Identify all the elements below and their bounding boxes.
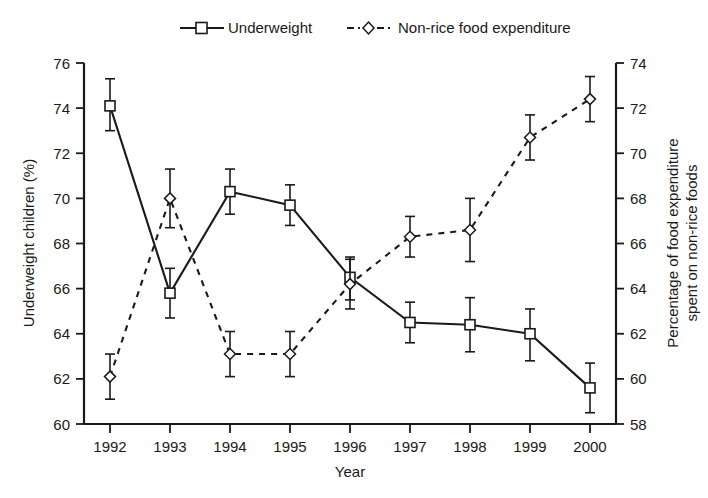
x-axis-tick-label: 2000: [573, 438, 606, 455]
legend-label-underweight: Underweight: [228, 19, 313, 36]
legend-marker-open-square: [196, 23, 207, 34]
data-point-marker-square: [585, 383, 595, 393]
y-axis-left-ticks: 606264666870727476: [53, 55, 84, 433]
data-point-marker-square: [165, 288, 175, 298]
y-axis-right-tick-label: 66: [630, 235, 647, 252]
data-point-marker-square: [465, 320, 475, 330]
data-point-marker-diamond: [525, 132, 536, 143]
legend-entry-underweight: Underweight: [180, 19, 313, 36]
y-axis-left-tick-label: 62: [53, 370, 70, 387]
series-line: [110, 99, 590, 377]
data-point-marker-diamond: [585, 94, 596, 105]
y-axis-left-tick-label: 72: [53, 145, 70, 162]
data-point-marker-square: [225, 187, 235, 197]
y-axis-right-tick-label: 68: [630, 190, 647, 207]
x-axis-ticks: 199219931994199519961997199819992000: [93, 424, 606, 455]
data-point-marker-square: [525, 329, 535, 339]
y-axis-right-tick-label: 70: [630, 145, 647, 162]
legend-label-nonrice: Non-rice food expenditure: [398, 19, 571, 36]
x-axis-tick-label: 1997: [393, 438, 426, 455]
y-axis-left-title: Underweight children (%): [20, 159, 37, 327]
y-axis-left-tick-label: 76: [53, 55, 70, 72]
y-axis-right-tick-label: 62: [630, 325, 647, 342]
legend-entry-nonrice: Non-rice food expenditure: [347, 19, 571, 36]
chart-figure: Underweight Non-rice food expenditure 60…: [0, 0, 708, 498]
y-axis-left-tick-label: 60: [53, 416, 70, 433]
line-chart-svg: Underweight Non-rice food expenditure 60…: [0, 0, 708, 498]
y-axis-right-tick-label: 74: [630, 55, 647, 72]
y-axis-right-tick-label: 72: [630, 100, 647, 117]
y-axis-right-tick-label: 58: [630, 416, 647, 433]
y-axis-right-title-line1: Percentage of food expenditure: [664, 138, 681, 347]
chart-series-layer: [105, 77, 596, 413]
y-axis-left-tick-label: 66: [53, 280, 70, 297]
data-point-marker-diamond: [165, 193, 176, 204]
y-axis-right-tick-label: 64: [630, 280, 647, 297]
y-axis-left-tick-label: 70: [53, 190, 70, 207]
series-underweight: [105, 79, 595, 413]
x-axis-title: Year: [335, 463, 365, 480]
x-axis-tick-label: 1995: [273, 438, 306, 455]
y-axis-left-tick-label: 74: [53, 100, 70, 117]
y-axis-left-tick-label: 68: [53, 235, 70, 252]
x-axis-tick-label: 1999: [513, 438, 546, 455]
x-axis-tick-label: 1992: [93, 438, 126, 455]
data-point-marker-square: [405, 317, 415, 327]
x-axis-tick-label: 1998: [453, 438, 486, 455]
y-axis-right-tick-label: 60: [630, 370, 647, 387]
y-axis-right-title-line2: spent on non-rice foods: [683, 165, 700, 322]
data-point-marker-diamond: [105, 371, 116, 382]
series-line: [110, 106, 590, 388]
x-axis-tick-label: 1994: [213, 438, 246, 455]
series-nonrice: [105, 77, 596, 400]
data-point-marker-square: [105, 101, 115, 111]
y-axis-left-tick-label: 64: [53, 325, 70, 342]
legend-marker-open-diamond: [363, 22, 374, 34]
data-point-marker-diamond: [225, 349, 236, 360]
chart-legend: Underweight Non-rice food expenditure: [180, 19, 571, 36]
x-axis-tick-label: 1996: [333, 438, 366, 455]
data-point-marker-square: [285, 200, 295, 210]
y-axis-right-ticks: 586062646668707274: [616, 55, 647, 433]
x-axis-tick-label: 1993: [153, 438, 186, 455]
data-point-marker-diamond: [465, 224, 476, 235]
